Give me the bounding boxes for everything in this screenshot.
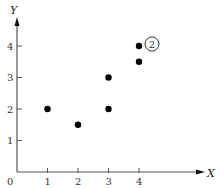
axes bbox=[15, 17, 206, 175]
data-point bbox=[136, 59, 142, 65]
y-tick-label: 1 bbox=[7, 135, 13, 146]
data-point bbox=[105, 106, 111, 112]
scatter-plot: 12341234 2 Y X 0 bbox=[0, 0, 221, 187]
ticks: 12341234 bbox=[7, 41, 142, 188]
y-tick-label: 4 bbox=[7, 41, 13, 52]
x-tick-label: 4 bbox=[136, 176, 142, 187]
data-points bbox=[44, 43, 142, 128]
data-point bbox=[136, 43, 142, 49]
y-axis-label: Y bbox=[10, 4, 19, 17]
x-axis-label: X bbox=[206, 167, 216, 180]
data-point bbox=[105, 74, 111, 80]
origin-label: 0 bbox=[7, 176, 13, 187]
annotation-label: 2 bbox=[149, 39, 155, 50]
annotations: 2 bbox=[145, 37, 159, 51]
x-axis-arrow-icon bbox=[196, 170, 205, 175]
data-point bbox=[44, 106, 50, 112]
y-tick-label: 2 bbox=[7, 104, 13, 115]
y-axis-arrow-icon bbox=[15, 17, 20, 26]
x-tick-label: 1 bbox=[45, 176, 51, 187]
x-tick-label: 3 bbox=[106, 176, 112, 187]
y-tick-label: 3 bbox=[7, 72, 13, 83]
x-tick-label: 2 bbox=[75, 176, 81, 187]
data-point bbox=[75, 122, 81, 128]
